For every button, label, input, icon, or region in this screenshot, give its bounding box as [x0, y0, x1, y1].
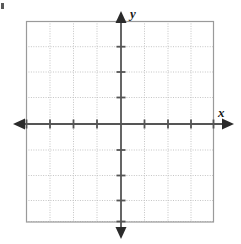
x-axis-label: x — [217, 105, 225, 120]
scan-speck-artifact — [1, 3, 4, 9]
coordinate-plane-figure: y x — [0, 0, 241, 244]
coordinate-plane-svg: y x — [0, 0, 241, 244]
y-axis-label: y — [128, 6, 136, 21]
